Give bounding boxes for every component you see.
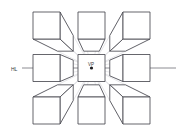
one-point-perspective-diagram: HL VP [0,0,183,136]
cube-bottom-left-front-face [33,97,60,124]
cube-top-center [78,12,105,51]
cube-middle-left [33,55,73,82]
horizon-line-label: HL [11,66,18,72]
cube-top-left-front-face [33,12,60,39]
cube-middle-left-front-face [33,55,60,82]
cube-middle-right-front-face [123,55,150,82]
vanishing-point-label: VP [88,62,94,67]
cube-bottom-center [78,85,105,124]
cube-middle-right [110,55,150,82]
cube-bottom-center-front-face [78,97,105,124]
cube-top-center-front-face [78,12,105,39]
cube-top-right-front-face [123,12,150,39]
perspective-diagram-canvas: HL VP [0,0,183,136]
cube-bottom-right-front-face [123,97,150,124]
